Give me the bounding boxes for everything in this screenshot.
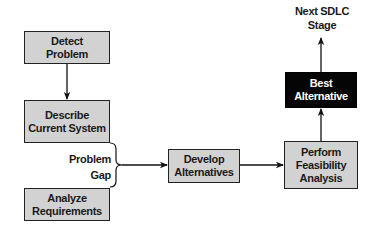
next-stage-line1: Next SDLC [282, 4, 362, 18]
node-text: Current System [28, 122, 106, 135]
node-perform-feasibility-analysis: Perform Feasibility Analysis [284, 141, 358, 189]
node-develop-alternatives: Develop Alternatives [168, 149, 240, 183]
node-text: Problem [46, 48, 88, 61]
node-text: Detect [51, 35, 83, 48]
node-text: Perform [301, 146, 341, 159]
node-analyze-requirements: Analyze Requirements [24, 188, 110, 221]
node-detect-problem: Detect Problem [24, 31, 110, 64]
node-text: Feasibility [296, 159, 347, 172]
problem-gap-line1: Problem [60, 152, 111, 166]
node-text: Develop [184, 153, 225, 166]
node-describe-current-system: Describe Current System [24, 100, 110, 143]
problem-gap-brace [110, 143, 122, 187]
node-text: Alternative [294, 90, 348, 103]
node-best-alternative: Best Alternative [285, 72, 357, 108]
node-text: Analyze [47, 192, 86, 205]
problem-gap-label: Problem Gap [60, 152, 111, 182]
node-text: Best [310, 77, 333, 90]
node-text: Describe [45, 109, 89, 122]
problem-gap-line2: Gap [60, 168, 111, 182]
next-sdlc-stage-label: Next SDLC Stage [282, 4, 362, 32]
next-stage-line2: Stage [282, 18, 362, 32]
node-text: Alternatives [174, 166, 233, 179]
node-text: Analysis [300, 172, 343, 185]
node-text: Requirements [32, 205, 102, 218]
